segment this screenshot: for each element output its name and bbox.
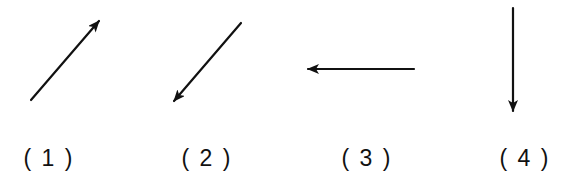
panel-label-4: ( 4 ) bbox=[500, 143, 551, 173]
diagram-canvas bbox=[0, 0, 562, 185]
panel-label-1: ( 1 ) bbox=[24, 143, 75, 173]
arrow-up-right-icon bbox=[31, 21, 99, 100]
arrow-group bbox=[31, 8, 513, 111]
arrow-down-left-icon bbox=[174, 23, 241, 101]
panel-label-3: ( 3 ) bbox=[342, 143, 393, 173]
panel-label-2: ( 2 ) bbox=[182, 143, 233, 173]
